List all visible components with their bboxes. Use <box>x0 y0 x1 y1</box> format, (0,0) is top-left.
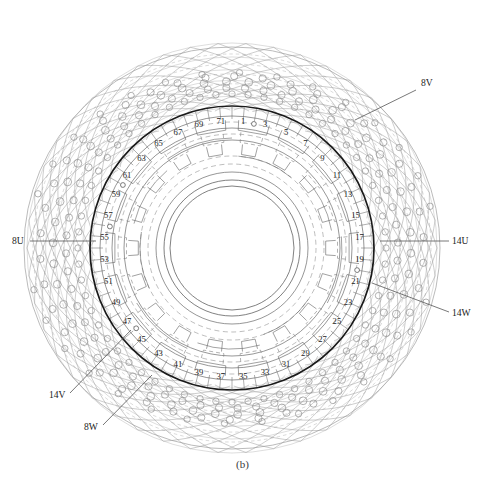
slot-number-51: 51 <box>104 276 113 286</box>
slot-number-11: 11 <box>333 170 341 180</box>
slot-number-61: 61 <box>123 170 132 180</box>
slot-number-29: 29 <box>301 348 310 358</box>
slot-number-23: 23 <box>344 297 353 307</box>
slot-number-45: 45 <box>137 334 146 344</box>
slot-number-19: 19 <box>355 254 364 264</box>
slot-number-63: 63 <box>137 153 146 163</box>
slot-number-15: 15 <box>351 210 360 220</box>
slot-number-69: 69 <box>195 119 204 129</box>
slot-number-33: 33 <box>261 367 270 377</box>
callout-label-8U: 8U <box>12 235 24 246</box>
slot-number-67: 67 <box>174 127 183 137</box>
slot-number-71: 71 <box>217 116 226 126</box>
callout-label-14W: 14W <box>452 307 472 318</box>
slot-number-37: 37 <box>217 371 226 381</box>
slot-number-47: 47 <box>123 316 132 326</box>
slot-number-3: 3 <box>263 119 267 129</box>
slot-number-7: 7 <box>303 138 308 148</box>
slot-number-41: 41 <box>174 359 183 369</box>
end-winding-mesh <box>24 43 440 453</box>
slot-number-55: 55 <box>100 232 109 242</box>
slot-number-59: 59 <box>112 189 121 199</box>
slot-number-43: 43 <box>154 348 163 358</box>
slot-number-65: 65 <box>154 138 163 148</box>
slot-number-57: 57 <box>104 210 113 220</box>
slot-number-31: 31 <box>282 359 291 369</box>
slot-number-13: 13 <box>344 189 353 199</box>
stator-cross-section-diagram: 1357911131517192123252729313335373941434… <box>0 0 485 496</box>
callout-label-8W: 8W <box>84 421 99 432</box>
slot-number-39: 39 <box>195 367 204 377</box>
callout-label-14U: 14U <box>452 235 469 246</box>
slot-number-9: 9 <box>320 153 324 163</box>
slot-number-25: 25 <box>333 316 342 326</box>
inner-winding-detail <box>91 107 373 389</box>
figure-container: 1357911131517192123252729313335373941434… <box>0 0 485 496</box>
callout-label-14V: 14V <box>49 389 66 400</box>
slot-number-35: 35 <box>239 371 248 381</box>
slot-number-27: 27 <box>318 334 327 344</box>
slot-number-49: 49 <box>112 297 121 307</box>
slot-number-5: 5 <box>284 127 288 137</box>
slot-number-53: 53 <box>100 254 109 264</box>
slot-number-21: 21 <box>351 276 360 286</box>
callout-label-8V: 8V <box>421 77 433 88</box>
slot-number-1: 1 <box>241 116 245 126</box>
slot-number-17: 17 <box>355 232 364 242</box>
figure-caption: (b) <box>0 458 485 470</box>
